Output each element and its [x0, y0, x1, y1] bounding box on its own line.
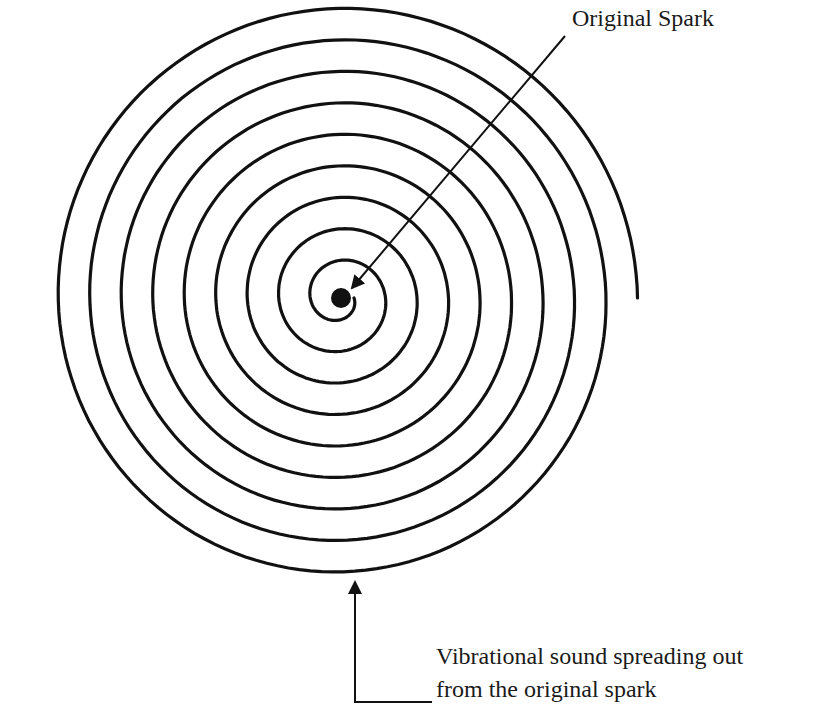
sound-pointer-arrow	[355, 582, 432, 702]
sound-spiral	[58, 8, 637, 572]
original-spark-label: Original Spark	[572, 2, 714, 35]
vibrational-sound-label: Vibrational sound spreading out from the…	[436, 640, 743, 706]
spiral-diagram	[0, 0, 836, 726]
vibrational-sound-label-line2: from the original spark	[436, 673, 743, 706]
spark-dot-icon	[331, 288, 351, 308]
vibrational-sound-label-line1: Vibrational sound spreading out	[436, 640, 743, 673]
